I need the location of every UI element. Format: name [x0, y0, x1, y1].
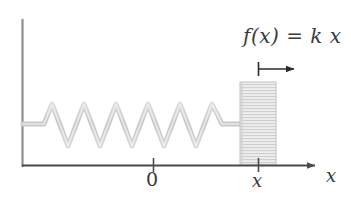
spring — [23, 104, 240, 146]
axis-tick-label-displacement: x — [252, 170, 262, 191]
force-formula-label: f(x) = k x — [243, 24, 342, 48]
axis-tick-label-origin: 0 — [146, 168, 158, 190]
block — [240, 82, 276, 165]
spring-force-figure: f(x) = k x 0 x x — [0, 0, 351, 203]
x-axis-label: x — [326, 165, 336, 186]
displacement-arrow — [259, 62, 295, 76]
